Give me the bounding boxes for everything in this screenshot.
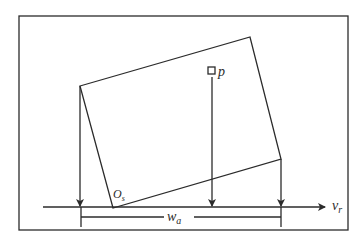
projection-arrows bbox=[80, 77, 281, 206]
point-p-marker-icon bbox=[208, 67, 215, 74]
velocity-label-subscript: r bbox=[338, 204, 342, 215]
width-label-subscript: a bbox=[176, 215, 181, 226]
origin-label-main: O bbox=[113, 187, 122, 201]
width-label: wa bbox=[167, 209, 181, 226]
velocity-label: vr bbox=[332, 198, 342, 215]
origin-label-subscript: s bbox=[122, 194, 125, 203]
origin-label: Os bbox=[113, 187, 125, 203]
outer-frame bbox=[19, 16, 348, 230]
rotated-rectangle bbox=[80, 37, 281, 208]
projection-diagram: p Os wa vr bbox=[0, 0, 364, 241]
point-p-label: p bbox=[217, 64, 225, 79]
